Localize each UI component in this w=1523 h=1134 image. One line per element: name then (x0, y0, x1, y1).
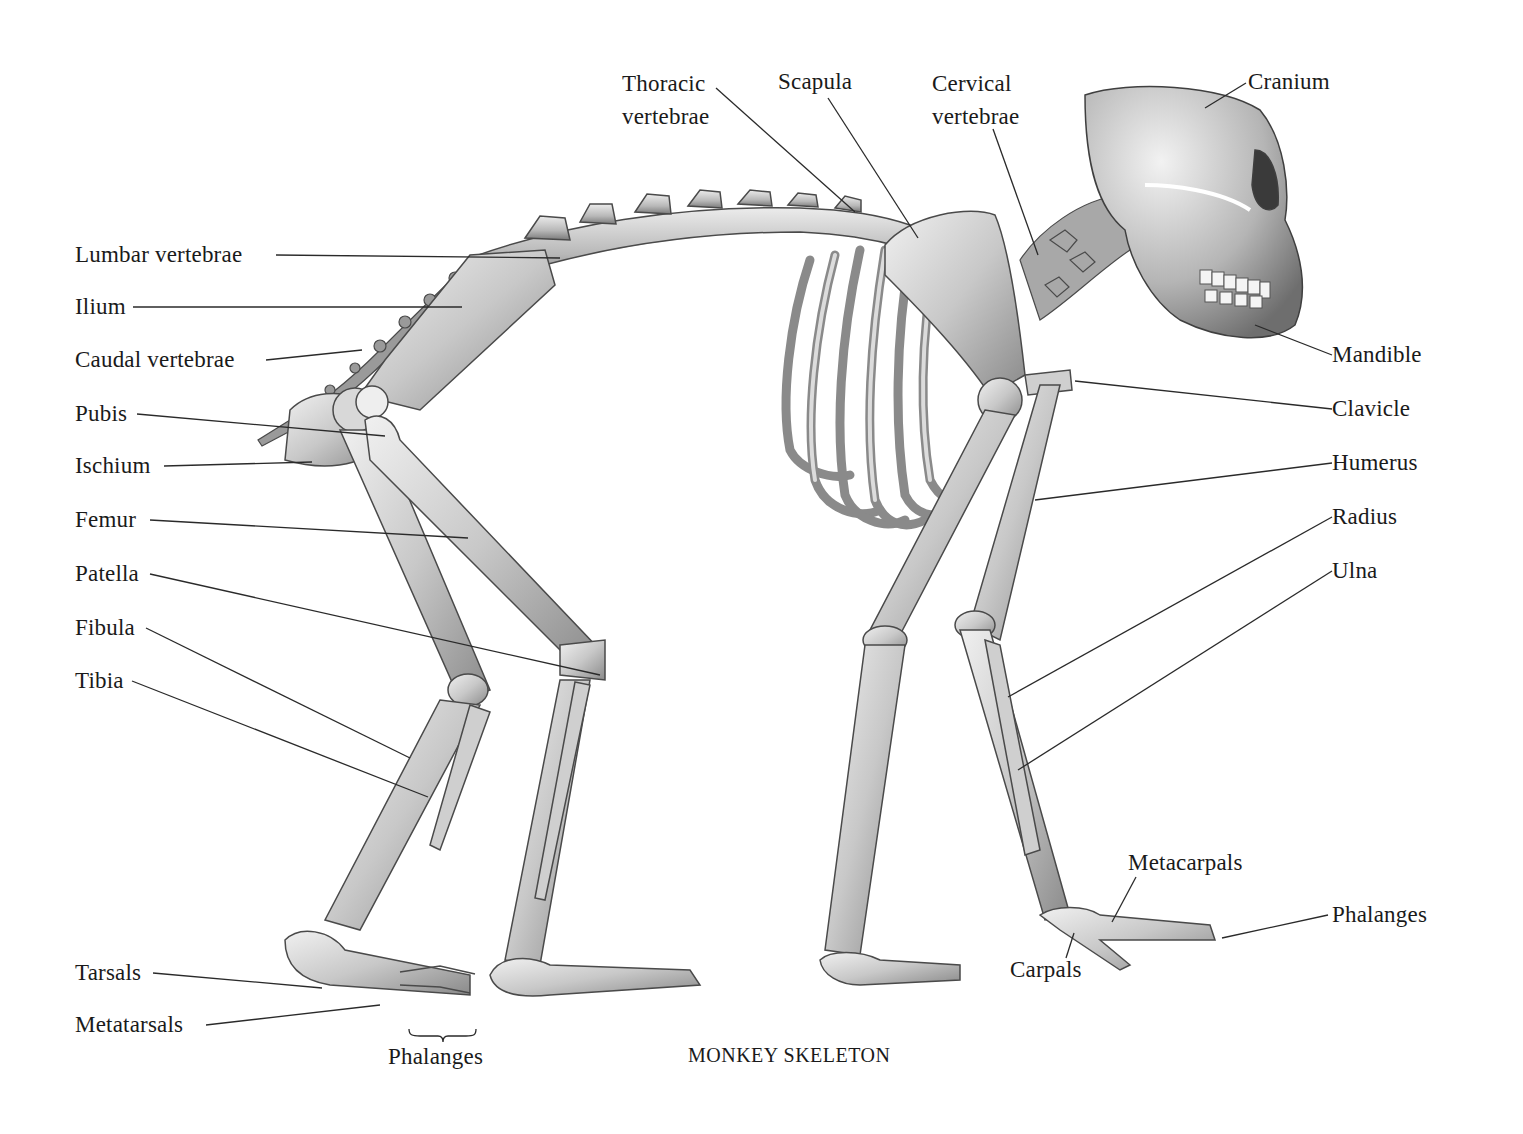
label-femur: Femur (75, 505, 136, 535)
label-humerus: Humerus (1332, 448, 1418, 478)
label-thoracic-line2: vertebrae (622, 100, 709, 133)
label-tarsals: Tarsals (75, 958, 141, 988)
label-fibula: Fibula (75, 613, 135, 643)
label-pubis: Pubis (75, 399, 127, 429)
label-cervical-line2: vertebrae (932, 100, 1019, 133)
label-ischium: Ischium (75, 451, 151, 481)
label-radius: Radius (1332, 502, 1397, 532)
diagram-title: MONKEY SKELETON (688, 1044, 891, 1067)
label-clavicle: Clavicle (1332, 394, 1410, 424)
hind-leg-right (365, 416, 700, 996)
fore-leg-front (955, 385, 1215, 970)
label-ilium: Ilium (75, 292, 126, 322)
label-lumbar-vertebrae: Lumbar vertebrae (75, 240, 242, 270)
pelvis (285, 250, 555, 466)
label-hand-phalanges: Phalanges (1332, 900, 1427, 930)
label-caudal-vertebrae: Caudal vertebrae (75, 345, 235, 375)
label-carpals: Carpals (1010, 955, 1082, 985)
label-mandible: Mandible (1332, 340, 1422, 370)
label-cervical-line1: Cervical (932, 67, 1019, 100)
label-patella: Patella (75, 559, 139, 589)
label-metacarpals: Metacarpals (1128, 848, 1243, 878)
skeleton-illustration (0, 0, 1523, 1134)
skull (1085, 87, 1302, 338)
label-cranium: Cranium (1248, 67, 1330, 97)
label-thoracic-line1: Thoracic (622, 67, 709, 100)
label-tibia: Tibia (75, 666, 124, 696)
label-metatarsals: Metatarsals (75, 1010, 183, 1040)
label-ulna: Ulna (1332, 556, 1378, 586)
label-scapula: Scapula (778, 67, 852, 97)
label-cervical-vertebrae: Cervical vertebrae (932, 67, 1019, 133)
label-thoracic-vertebrae: Thoracic vertebrae (622, 67, 709, 133)
label-foot-phalanges: Phalanges (388, 1042, 483, 1072)
monkey-skeleton-diagram: Thoracic vertebrae Scapula Cervical vert… (0, 0, 1523, 1134)
